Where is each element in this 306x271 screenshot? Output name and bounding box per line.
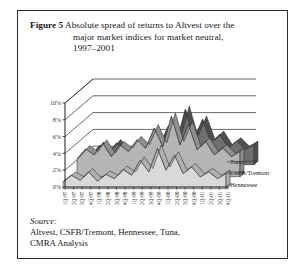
y-tick-label: 4% <box>53 150 61 157</box>
x-tick-label: 4Q-01 <box>225 191 231 205</box>
x-axis-labels: 1Q-972Q-973Q-974Q-971Q-982Q-983Q-984Q-98… <box>62 187 231 205</box>
figure-number: Figure 5 <box>30 20 63 30</box>
x-tick-label: 1Q-98 <box>96 191 102 205</box>
series-label-csfb-tremont: CSFB/Tremont <box>230 169 269 176</box>
figure-frame: Figure 5 Absolute spread of returns to A… <box>17 10 288 259</box>
series-label-tuna: Tuna <box>230 158 243 165</box>
y-tick-label: 2% <box>53 166 61 173</box>
x-tick-label: 1Q-99 <box>131 191 137 205</box>
x-tick-label: 2Q-00 <box>174 191 180 205</box>
y-tick-label: 6% <box>53 133 61 140</box>
y-tick-label: 10% <box>50 99 61 106</box>
caption-line-1: Figure 5 Absolute spread of returns to A… <box>30 20 278 32</box>
source-line-1: Source: Altvest, CSFB/Tremont, Hennessee… <box>30 216 276 238</box>
x-tick-label: 3Q-98 <box>114 191 120 205</box>
source-text-1: Altvest, CSFB/Tremont, Hennessee, Tuna, <box>30 227 276 238</box>
ribbon-3d-chart: 0%2%4%6%8%10%1Q-972Q-973Q-974Q-971Q-982Q… <box>22 61 285 213</box>
x-tick-label: 1Q-00 <box>165 191 171 205</box>
x-tick-label: 4Q-98 <box>122 191 128 205</box>
y-tick-label: 8% <box>53 116 61 123</box>
caption-line-2: major market indices for market neutral, <box>30 32 278 44</box>
y-tick-label: 0% <box>53 183 61 190</box>
source-line-2: CMRA Analysis <box>30 238 276 249</box>
x-tick-label: 2Q-98 <box>105 191 111 205</box>
x-tick-label: 2Q-01 <box>208 191 214 205</box>
x-tick-label: 1Q-97 <box>62 191 68 205</box>
figure-caption: Figure 5 Absolute spread of returns to A… <box>30 20 278 55</box>
x-tick-label: 4Q-00 <box>191 191 197 205</box>
caption-text-1: Absolute spread of returns to Altvest ov… <box>65 20 234 30</box>
chart-plot-area: 0%2%4%6%8%10%1Q-972Q-973Q-974Q-971Q-982Q… <box>22 61 285 213</box>
source-label: Source: <box>30 216 276 227</box>
x-tick-label: 3Q-01 <box>217 191 223 205</box>
x-tick-label: 3Q-97 <box>79 191 85 205</box>
x-tick-label: 4Q-99 <box>156 191 162 205</box>
caption-line-3: 1997–2001 <box>30 43 278 55</box>
x-tick-label: 2Q-97 <box>71 191 77 205</box>
x-tick-label: 1Q-01 <box>199 191 205 205</box>
x-tick-label: 2Q-99 <box>139 191 145 205</box>
series-label-hennessee: Hennessee <box>230 181 257 188</box>
source-note: Source: Altvest, CSFB/Tremont, Hennessee… <box>30 216 276 249</box>
y-axis-labels: 0%2%4%6%8%10% <box>50 99 65 190</box>
x-tick-label: 3Q-99 <box>148 191 154 205</box>
x-tick-label: 3Q-00 <box>182 191 188 205</box>
x-tick-label: 4Q-97 <box>88 191 94 205</box>
